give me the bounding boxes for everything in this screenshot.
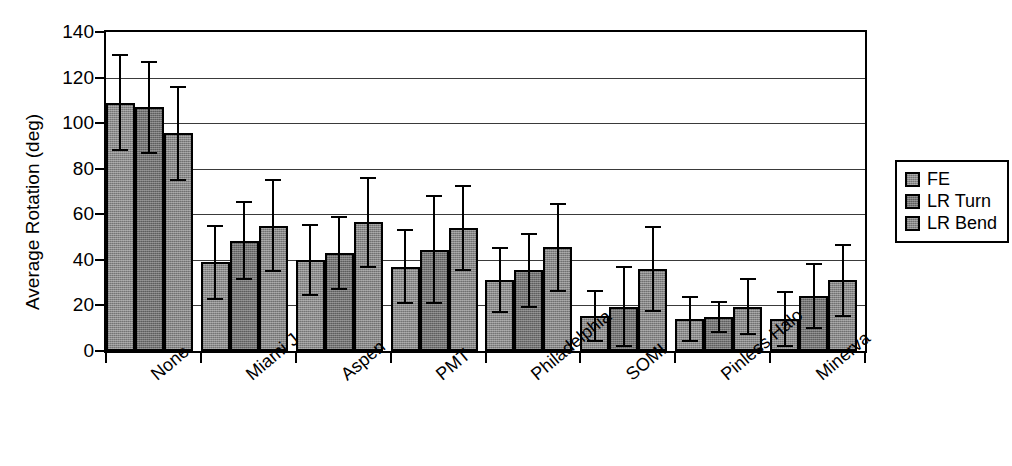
y-axis-tick-label: 40 (50, 250, 94, 269)
error-bar-cap (835, 244, 851, 246)
legend-swatch-icon (905, 172, 920, 187)
error-bar-cap (170, 179, 186, 181)
error-bar-cap (740, 333, 756, 335)
error-bar-cap (331, 216, 347, 218)
error-bar-cap (645, 310, 661, 312)
x-axis-tick-mark (295, 353, 297, 363)
x-axis-tick-mark (674, 353, 676, 363)
legend-label: FE (927, 170, 950, 188)
error-bar-cap (616, 345, 632, 347)
legend-label: LR Turn (927, 192, 991, 210)
chart-figure: Average Rotation (deg) 02040608010012014… (0, 0, 1012, 466)
error-bar-cap (207, 225, 223, 227)
error-bar-stem (718, 302, 720, 332)
y-axis-tick-label: 60 (50, 204, 94, 223)
legend-swatch-icon (905, 216, 920, 231)
error-bar-cap (360, 266, 376, 268)
error-bar-cap (740, 278, 756, 280)
error-bar-cap (455, 269, 471, 271)
error-bar-cap (587, 290, 603, 292)
error-bar-cap (170, 86, 186, 88)
error-bar-cap (455, 185, 471, 187)
y-axis-tick-label: 0 (50, 341, 94, 360)
error-bar-cap (207, 298, 223, 300)
error-bar-stem (813, 264, 815, 328)
gridline (106, 169, 865, 170)
error-bar-stem (119, 55, 121, 151)
chart-legend: FE LR Turn LR Bend (895, 160, 1009, 243)
error-bar-cap (682, 340, 698, 342)
error-bar-cap (397, 229, 413, 231)
error-bar-cap (777, 345, 793, 347)
error-bar-cap (777, 291, 793, 293)
legend-item[interactable]: LR Bend (905, 212, 997, 234)
error-bar-stem (367, 178, 369, 267)
error-bar-stem (309, 225, 311, 296)
x-axis-tick-mark (769, 353, 771, 363)
y-axis-tick-label: 100 (50, 113, 94, 132)
error-bar-cap (835, 315, 851, 317)
error-bar-cap (492, 311, 508, 313)
error-bar-cap (550, 290, 566, 292)
error-bar-cap (112, 54, 128, 56)
y-axis-tick-label: 80 (50, 159, 94, 178)
error-bar-stem (214, 226, 216, 299)
gridline (106, 214, 865, 215)
gridline (106, 78, 865, 79)
error-bar-stem (623, 267, 625, 347)
error-bar-cap (806, 327, 822, 329)
error-bar-cap (521, 306, 537, 308)
error-bar-stem (433, 196, 435, 303)
error-bar-cap (521, 233, 537, 235)
error-bar-stem (842, 245, 844, 316)
error-bar-cap (492, 247, 508, 249)
legend-item[interactable]: LR Turn (905, 190, 997, 212)
error-bar-cap (141, 61, 157, 63)
y-axis-tick-label: 140 (50, 22, 94, 41)
y-axis-tick-label: 20 (50, 295, 94, 314)
error-bar-cap (236, 201, 252, 203)
error-bar-cap (397, 302, 413, 304)
error-bar-stem (557, 204, 559, 291)
error-bar-cap (265, 179, 281, 181)
error-bar-stem (243, 202, 245, 279)
error-bar-stem (528, 234, 530, 307)
error-bar-stem (499, 248, 501, 312)
y-axis-title: Average Rotation (deg) (22, 113, 44, 309)
error-bar-cap (682, 296, 698, 298)
gridline (106, 260, 865, 261)
x-axis-tick-mark (485, 353, 487, 363)
legend-swatch-icon (905, 194, 920, 209)
plot-area (104, 30, 867, 353)
legend-label: LR Bend (927, 214, 997, 232)
y-axis-tick-label: 120 (50, 68, 94, 87)
error-bar-stem (747, 279, 749, 334)
error-bar-stem (462, 186, 464, 270)
error-bar-cap (302, 224, 318, 226)
x-axis-tick-mark (864, 353, 866, 363)
error-bar-cap (806, 263, 822, 265)
error-bar-stem (338, 217, 340, 290)
error-bar-cap (112, 149, 128, 151)
error-bar-stem (177, 87, 179, 180)
error-bar-cap (265, 270, 281, 272)
error-bar-cap (616, 266, 632, 268)
error-bar-cap (711, 301, 727, 303)
error-bar-cap (711, 331, 727, 333)
error-bar-cap (360, 177, 376, 179)
error-bar-cap (426, 302, 442, 304)
error-bar-cap (141, 152, 157, 154)
gridline (106, 123, 865, 124)
x-axis-tick-mark (579, 353, 581, 363)
error-bar-cap (426, 195, 442, 197)
error-bar-cap (645, 226, 661, 228)
x-axis-tick-mark (200, 353, 202, 363)
error-bar-stem (652, 227, 654, 311)
error-bar-stem (689, 297, 691, 340)
error-bar-stem (404, 230, 406, 303)
legend-item[interactable]: FE (905, 168, 997, 190)
error-bar-stem (148, 62, 150, 153)
x-axis-tick-mark (105, 353, 107, 363)
x-axis-tick-mark (390, 353, 392, 363)
error-bar-cap (550, 203, 566, 205)
